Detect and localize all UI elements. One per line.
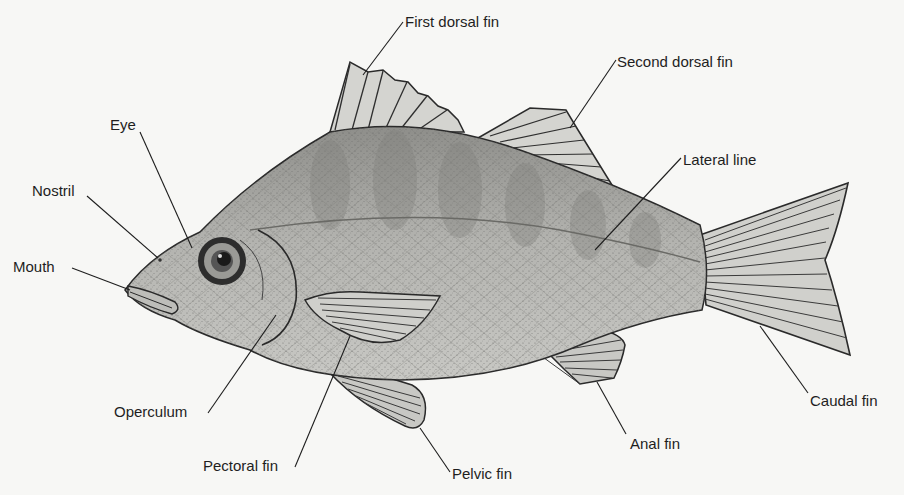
caudal-fin-shape (700, 183, 850, 355)
pelvic-fin-shape (330, 373, 426, 429)
label-nostril: Nostril (32, 183, 75, 198)
label-pelvic-fin: Pelvic fin (452, 466, 512, 481)
label-lateral-line: Lateral line (683, 152, 756, 167)
eye-shape (198, 237, 246, 285)
label-caudal-fin: Caudal fin (810, 393, 878, 408)
label-pectoral-fin: Pectoral fin (203, 458, 278, 473)
label-first-dorsal-fin: First dorsal fin (405, 14, 499, 29)
label-eye: Eye (110, 117, 136, 132)
fish-illustration (0, 0, 904, 495)
fish-anatomy-diagram: First dorsal fin Second dorsal fin Later… (0, 0, 904, 495)
label-anal-fin: Anal fin (630, 436, 680, 451)
first-dorsal-fin-shape (330, 62, 464, 132)
label-second-dorsal-fin: Second dorsal fin (617, 54, 733, 69)
label-operculum: Operculum (114, 404, 187, 419)
label-mouth: Mouth (13, 259, 55, 274)
nostril-shape (158, 258, 162, 262)
